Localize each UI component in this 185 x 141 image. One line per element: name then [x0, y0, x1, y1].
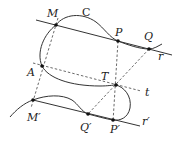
- point-m: [54, 23, 58, 27]
- line-t: [33, 63, 141, 91]
- dashed-p-p-prime: [113, 41, 118, 122]
- label-r: r: [158, 50, 164, 63]
- dashed-q-q-prime: [88, 49, 149, 114]
- point-p: [116, 39, 120, 43]
- point-q-prime: [86, 112, 90, 116]
- label-m-prime: M′: [26, 111, 41, 124]
- label-curve-c: C: [82, 6, 90, 19]
- label-r-prime: r′: [142, 115, 150, 128]
- curve-c-bottom: [10, 96, 113, 120]
- diagram-canvas: M C P Q r A T t M′ Q′ P′ r′: [0, 0, 185, 141]
- label-m: M: [46, 7, 59, 20]
- label-p-prime: P′: [109, 123, 120, 136]
- label-p: P: [114, 26, 123, 39]
- label-t-line: t: [145, 86, 150, 99]
- point-t: [114, 83, 118, 87]
- label-t-point: T: [101, 70, 110, 83]
- point-m-prime: [31, 98, 35, 102]
- label-q-prime: Q′: [80, 121, 92, 134]
- point-q: [147, 47, 151, 51]
- curve-c-lower-loop: [40, 25, 130, 120]
- label-a: A: [26, 66, 35, 79]
- label-q: Q: [144, 30, 153, 43]
- point-a: [40, 64, 44, 68]
- geometry-figure: M C P Q r A T t M′ Q′ P′ r′: [0, 0, 185, 141]
- dashed-m-m-prime: [31, 18, 58, 108]
- point-p-prime: [111, 118, 115, 122]
